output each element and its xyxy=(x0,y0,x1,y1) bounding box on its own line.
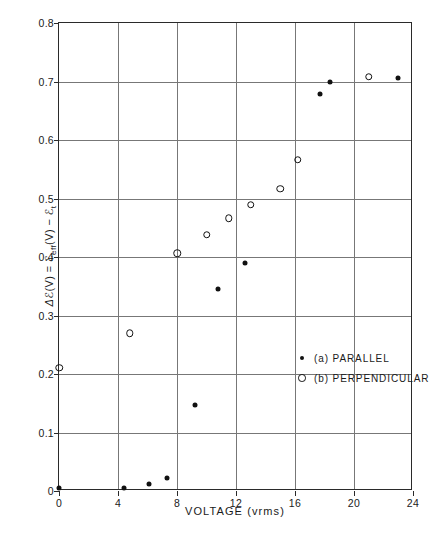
x-axis-tick xyxy=(177,491,178,496)
y-axis-tick xyxy=(54,257,59,258)
y-axis-tick xyxy=(54,433,59,434)
y-axis-title-epsilon-1: ℰ xyxy=(43,292,55,299)
data-point-perpendicular xyxy=(126,329,134,337)
data-point-parallel xyxy=(146,481,151,486)
y-axis-tick-label: 0.8 xyxy=(39,17,55,29)
plot-area: 0481216202400.10.20.30.40.50.60.70.8 (a)… xyxy=(58,22,412,490)
y-axis-title-delta: Δ xyxy=(43,299,55,307)
y-axis-tick-label: 0.3 xyxy=(39,310,55,322)
data-point-parallel xyxy=(216,286,221,291)
data-point-perpendicular xyxy=(277,185,285,193)
gridline-horizontal xyxy=(59,316,411,317)
x-axis-tick xyxy=(118,491,119,496)
data-point-perpendicular xyxy=(55,364,63,372)
y-axis-tick-label: 0.6 xyxy=(39,134,55,146)
y-axis-tick xyxy=(54,140,59,141)
y-axis-tick-label: 0 xyxy=(48,485,54,497)
data-point-parallel xyxy=(318,92,323,97)
gridline-horizontal xyxy=(59,257,411,258)
y-axis-title-epsilon-3: ℰ xyxy=(43,208,55,215)
gridline-vertical xyxy=(236,23,237,489)
y-axis-tick-label: 0.5 xyxy=(39,193,55,205)
x-axis-tick xyxy=(354,491,355,496)
x-axis-tick xyxy=(59,491,60,496)
y-axis-title-subscript-t: t xyxy=(49,206,58,209)
gridline-horizontal xyxy=(59,433,411,434)
data-point-perpendicular xyxy=(365,73,373,81)
data-point-perpendicular xyxy=(247,201,255,209)
legend-item-label: (a) PARALLEL xyxy=(314,353,390,364)
y-axis-tick-label: 0.2 xyxy=(39,368,55,380)
legend-item: (a) PARALLEL xyxy=(295,348,429,368)
gridline-vertical xyxy=(354,23,355,489)
y-axis-title-minus: − xyxy=(43,215,55,229)
x-axis-tick xyxy=(413,491,414,496)
y-axis-tick xyxy=(54,23,59,24)
open-circle-icon xyxy=(295,374,309,382)
filled-circle-icon xyxy=(295,356,309,361)
x-axis-tick xyxy=(295,491,296,496)
y-axis-tick-label: 0.1 xyxy=(39,427,55,439)
data-point-parallel xyxy=(396,75,401,80)
gridline-horizontal xyxy=(59,82,411,83)
y-axis-title-arg-2: (V) xyxy=(43,229,55,245)
legend-marker-glyph xyxy=(298,374,306,382)
y-axis-tick xyxy=(54,316,59,317)
data-point-parallel xyxy=(57,486,62,491)
data-point-parallel xyxy=(121,486,126,491)
x-axis-tick xyxy=(236,491,237,496)
y-axis-tick xyxy=(54,82,59,83)
legend-item: (b) PERPENDICULAR xyxy=(295,368,429,388)
data-point-perpendicular xyxy=(203,231,211,239)
y-axis-tick xyxy=(54,491,59,492)
y-axis-tick xyxy=(54,374,59,375)
data-point-parallel xyxy=(164,476,169,481)
y-axis-title-arg-1: (V) = xyxy=(43,262,55,292)
legend: (a) PARALLEL(b) PERPENDICULAR xyxy=(295,348,429,388)
y-axis-tick xyxy=(54,199,59,200)
gridline-vertical xyxy=(118,23,119,489)
data-point-parallel xyxy=(192,403,197,408)
legend-item-label: (b) PERPENDICULAR xyxy=(314,373,429,384)
gridline-vertical xyxy=(295,23,296,489)
data-point-perpendicular xyxy=(294,156,302,164)
x-axis-title: VOLTAGE (vrms) xyxy=(58,505,412,517)
data-point-perpendicular xyxy=(225,215,233,223)
data-point-parallel xyxy=(328,79,333,84)
data-point-parallel xyxy=(242,261,247,266)
data-point-perpendicular xyxy=(173,250,181,258)
gridline-horizontal xyxy=(59,199,411,200)
gridline-horizontal xyxy=(59,140,411,141)
y-axis-title-container: Δℰ(V) = ℰeff(V) − ℰt xyxy=(8,22,28,490)
y-axis-tick-label: 0.7 xyxy=(39,76,55,88)
y-axis-tick-label: 0.4 xyxy=(39,251,55,263)
legend-marker-glyph xyxy=(300,356,305,361)
